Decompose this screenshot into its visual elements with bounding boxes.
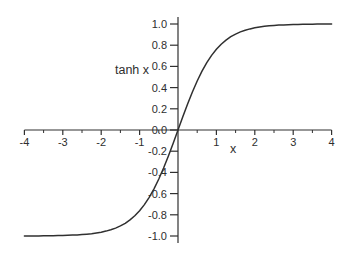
- x-tick-label: 4: [329, 136, 335, 148]
- tanh-figure: -4-3-2-112341.00.80.60.40.20.0-0.2-0.4-0…: [0, 0, 342, 255]
- x-axis-title: x: [230, 142, 237, 156]
- y-axis-title: tanh x: [115, 63, 150, 77]
- y-tick-label: 0.4: [152, 82, 167, 94]
- chart-layer: -4-3-2-112341.00.80.60.40.20.0-0.2-0.4-0…: [20, 17, 335, 243]
- y-tick-label: 1.0: [152, 18, 167, 30]
- y-tick-label: 0.8: [152, 39, 167, 51]
- tanh-plot: -4-3-2-112341.00.80.60.40.20.0-0.2-0.4-0…: [0, 0, 342, 255]
- x-tick-label: 3: [290, 136, 296, 148]
- x-tick-label: 1: [213, 136, 219, 148]
- y-tick-label: -1.0: [148, 230, 167, 242]
- x-tick-label: -1: [135, 136, 145, 148]
- y-tick-label: 0.6: [152, 60, 167, 72]
- y-tick-label: -0.2: [148, 145, 167, 157]
- x-tick-label: -3: [58, 136, 68, 148]
- y-tick-label: 0.2: [152, 103, 167, 115]
- x-tick-label: 2: [252, 136, 258, 148]
- x-tick-label: -2: [96, 136, 106, 148]
- y-tick-label: 0.0: [152, 124, 167, 136]
- x-tick-label: -4: [20, 136, 30, 148]
- y-tick-label: -0.8: [148, 209, 167, 221]
